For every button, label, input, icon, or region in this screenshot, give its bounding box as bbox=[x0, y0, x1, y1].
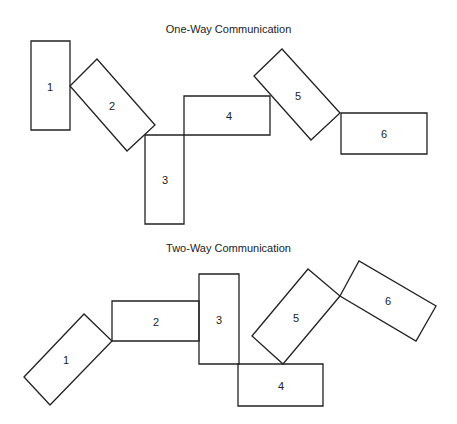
block-label: 6 bbox=[385, 295, 391, 307]
block-label: 1 bbox=[63, 354, 69, 366]
one-way-diagram: 123456 bbox=[31, 41, 427, 224]
block-label: 2 bbox=[153, 316, 159, 328]
block-label: 4 bbox=[278, 380, 284, 392]
two-way-diagram: 123456 bbox=[24, 261, 436, 406]
diagram-canvas: 123456123456 bbox=[0, 0, 457, 424]
block-label: 5 bbox=[295, 90, 301, 102]
block-label: 3 bbox=[216, 314, 222, 326]
block-label: 6 bbox=[381, 128, 387, 140]
block-label: 1 bbox=[47, 81, 53, 93]
block-label: 5 bbox=[293, 312, 299, 324]
block-label: 3 bbox=[162, 174, 168, 186]
block-label: 4 bbox=[226, 110, 232, 122]
block-label: 2 bbox=[109, 100, 115, 112]
